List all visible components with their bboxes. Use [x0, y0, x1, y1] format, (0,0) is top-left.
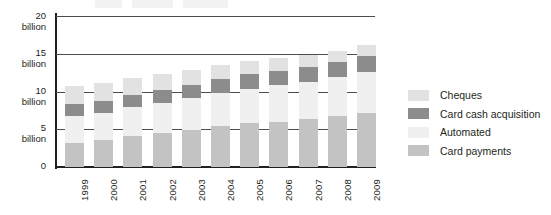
bar-2009[interactable]	[357, 45, 376, 167]
legend-label: Automated	[440, 126, 491, 138]
y-tick-5-unit: billion	[22, 133, 46, 144]
y-tick-15-unit: billion	[22, 58, 46, 69]
bar-segment-cheques[interactable]	[94, 83, 113, 100]
bar-segment-automated[interactable]	[211, 93, 230, 126]
bar-segment-card-cash-acquisition[interactable]	[211, 79, 230, 93]
bar-2006[interactable]	[269, 58, 288, 167]
x-tick-2009: 2009	[371, 179, 382, 201]
legend-swatch-icon	[408, 108, 429, 119]
bar-1999[interactable]	[65, 86, 84, 167]
legend-swatch-icon	[408, 145, 429, 156]
y-tick-15: 15 billion	[0, 48, 46, 69]
legend-item-card-payments[interactable]: Card payments	[408, 142, 548, 161]
bar-segment-card-payments[interactable]	[94, 140, 113, 167]
bar-segment-automated[interactable]	[357, 72, 376, 113]
bars-container	[56, 16, 375, 167]
bar-segment-card-payments[interactable]	[240, 123, 259, 167]
y-tick-20-value: 20	[35, 10, 46, 21]
x-axis-labels: 1999200020012002200320042005200620072008…	[0, 170, 551, 215]
bar-segment-automated[interactable]	[240, 89, 259, 124]
bar-2000[interactable]	[94, 83, 113, 167]
y-tick-5: 5 billion	[0, 123, 46, 144]
x-tick-2002: 2002	[167, 179, 178, 201]
legend-label: Card payments	[440, 145, 511, 157]
x-tick-2004: 2004	[225, 179, 236, 201]
bar-segment-card-cash-acquisition[interactable]	[182, 85, 201, 99]
bar-segment-cheques[interactable]	[211, 65, 230, 79]
bar-segment-card-cash-acquisition[interactable]	[269, 71, 288, 85]
bar-2003[interactable]	[182, 70, 201, 167]
bar-segment-card-payments[interactable]	[182, 130, 201, 167]
stacked-bar-chart: 20 billion 15 billion 10 billion 5 billi…	[0, 0, 551, 215]
x-tick-2003: 2003	[196, 179, 207, 201]
bar-2008[interactable]	[328, 51, 347, 167]
bar-segment-card-cash-acquisition[interactable]	[153, 90, 172, 103]
bar-segment-automated[interactable]	[182, 98, 201, 130]
y-tick-20: 20 billion	[0, 11, 46, 32]
bar-segment-card-cash-acquisition[interactable]	[240, 74, 259, 88]
bar-segment-automated[interactable]	[123, 107, 142, 136]
bar-2004[interactable]	[211, 65, 230, 167]
y-tick-10-value: 10	[35, 85, 46, 96]
y-tick-20-unit: billion	[22, 21, 46, 32]
y-tick-10-unit: billion	[22, 96, 46, 107]
bar-2001[interactable]	[123, 78, 142, 167]
legend-item-automated[interactable]: Automated	[408, 123, 548, 142]
bar-segment-card-payments[interactable]	[211, 126, 230, 167]
bar-segment-automated[interactable]	[153, 103, 172, 133]
x-tick-2005: 2005	[254, 179, 265, 201]
bar-2005[interactable]	[240, 61, 259, 167]
bar-segment-card-cash-acquisition[interactable]	[328, 62, 347, 77]
bar-segment-card-payments[interactable]	[153, 133, 172, 167]
bar-segment-card-cash-acquisition[interactable]	[299, 67, 318, 82]
legend-item-card-cash-acquisition[interactable]: Card cash acquisition	[408, 105, 548, 124]
bar-2002[interactable]	[153, 74, 172, 167]
x-tick-1999: 1999	[79, 179, 90, 201]
legend-label: Card cash acquisition	[440, 108, 540, 120]
x-tick-2006: 2006	[283, 179, 294, 201]
bar-segment-cheques[interactable]	[182, 70, 201, 85]
bar-segment-automated[interactable]	[269, 85, 288, 121]
legend-swatch-icon	[408, 90, 429, 101]
bar-segment-card-payments[interactable]	[357, 113, 376, 167]
x-tick-2000: 2000	[108, 179, 119, 201]
bar-segment-cheques[interactable]	[269, 58, 288, 71]
x-tick-2007: 2007	[313, 179, 324, 201]
bar-segment-cheques[interactable]	[65, 86, 84, 104]
bar-segment-card-payments[interactable]	[328, 116, 347, 167]
bar-segment-card-cash-acquisition[interactable]	[357, 56, 376, 72]
bar-segment-card-cash-acquisition[interactable]	[94, 101, 113, 113]
y-tick-5-value: 5	[41, 122, 46, 133]
chart-legend: ChequesCard cash acquisitionAutomatedCar…	[408, 86, 548, 160]
bar-segment-cheques[interactable]	[357, 45, 376, 56]
bar-2007[interactable]	[299, 55, 318, 167]
y-tick-15-value: 15	[35, 47, 46, 58]
bar-segment-automated[interactable]	[328, 77, 347, 116]
bar-segment-automated[interactable]	[94, 113, 113, 140]
bar-segment-card-payments[interactable]	[65, 143, 84, 167]
y-tick-10: 10 billion	[0, 86, 46, 107]
bar-segment-cheques[interactable]	[328, 51, 347, 62]
bar-segment-automated[interactable]	[65, 116, 84, 142]
bar-segment-card-payments[interactable]	[269, 122, 288, 167]
legend-label: Cheques	[440, 89, 482, 101]
bar-segment-card-cash-acquisition[interactable]	[65, 104, 84, 116]
bar-segment-cheques[interactable]	[240, 61, 259, 75]
bar-segment-automated[interactable]	[299, 82, 318, 120]
legend-item-cheques[interactable]: Cheques	[408, 86, 548, 105]
bar-segment-card-payments[interactable]	[299, 119, 318, 167]
bar-segment-cheques[interactable]	[153, 74, 172, 90]
x-tick-2001: 2001	[137, 179, 148, 201]
legend-swatch-icon	[408, 127, 429, 138]
cropped-title-remnant	[95, 0, 265, 8]
x-tick-2008: 2008	[342, 179, 353, 201]
bar-segment-cheques[interactable]	[299, 55, 318, 67]
bar-segment-card-cash-acquisition[interactable]	[123, 95, 142, 108]
bar-segment-card-payments[interactable]	[123, 136, 142, 167]
plot-area	[56, 16, 375, 167]
bar-segment-cheques[interactable]	[123, 78, 142, 95]
